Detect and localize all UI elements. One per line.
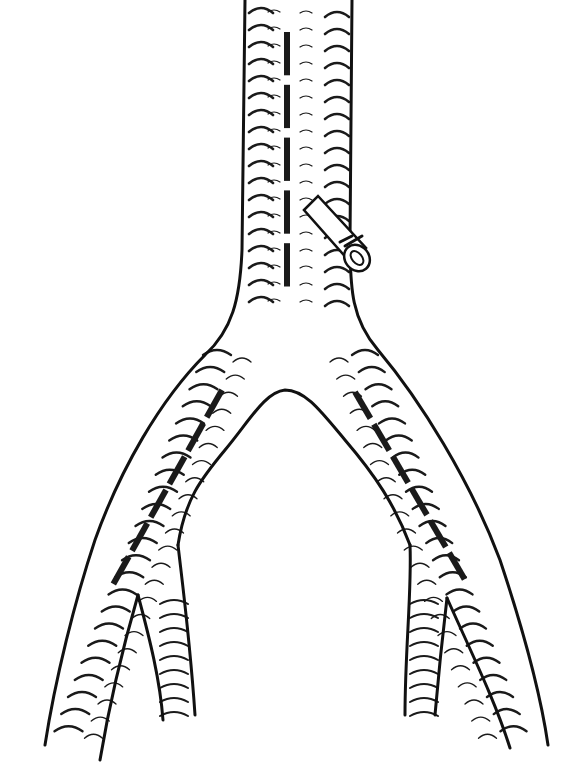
aortic-bifurcation-illustration	[0, 0, 566, 766]
aorta-right-wall	[350, 0, 548, 745]
left-internal-iliac-inner	[178, 545, 195, 715]
right-iliac-incision-dash	[393, 456, 408, 482]
vessel-wall-hatching	[55, 8, 527, 738]
left-iliac-incision-dash	[207, 390, 222, 417]
left-iliac-incision-dash	[132, 523, 147, 550]
right-iliac-incision-dash	[412, 489, 427, 515]
right-external-iliac-inner	[447, 598, 510, 748]
right-iliac-incision-dash	[449, 553, 464, 579]
ligated-side-branch	[304, 196, 375, 276]
right-iliac-incision-dash	[355, 392, 370, 418]
left-internal-iliac-outer	[138, 595, 163, 720]
right-internal-iliac-outer	[405, 545, 410, 715]
aorta-left-wall	[45, 0, 245, 745]
vessel-outlines	[45, 0, 548, 760]
suture-lines	[113, 32, 464, 584]
left-external-iliac-inner	[100, 595, 138, 760]
